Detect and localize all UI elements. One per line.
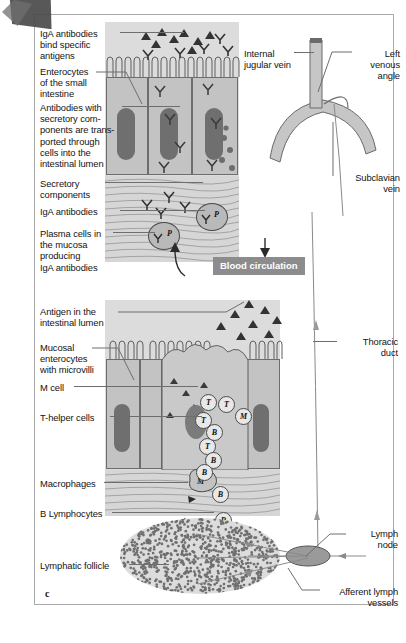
b-lymphocyte-cell: B xyxy=(206,424,223,441)
lower-microvilli-right xyxy=(248,340,282,360)
leader-antibodies-secretory xyxy=(122,106,180,107)
figure-canvas: P P IgA antibodies bind specific antigen… xyxy=(0,0,406,643)
leader-lymphatic-follicle xyxy=(129,564,169,565)
label-afferent-lymph-vessels: Afferent lymph vessels xyxy=(316,586,398,608)
label-m-cell: M cell xyxy=(40,382,122,393)
label-b-lymphocytes: B Lymphocytes xyxy=(40,508,126,519)
label-t-helper-cells: T-helper cells xyxy=(40,412,122,423)
leader-t-helper-cells xyxy=(110,416,202,417)
leader-iga-antibodies-bind xyxy=(120,32,184,33)
leader-mucosal-enterocytes xyxy=(92,346,136,386)
label-left-venous-angle: Left venous angle xyxy=(352,48,400,82)
t-helper-cell: T xyxy=(200,394,217,411)
label-plasma-cells-mucosa: Plasma cells in the mucosa producing IgA… xyxy=(40,228,124,273)
leader-secretory-components xyxy=(105,182,203,183)
label-thoracic-duct: Thoracic duct xyxy=(340,336,398,358)
label-lymphatic-follicle: Lymphatic follicle xyxy=(40,560,136,571)
t-helper-cell: T xyxy=(218,396,235,413)
leader-macrophages xyxy=(104,482,188,483)
label-lymph-node: Lymph node xyxy=(346,528,398,550)
m-cell-circle: M xyxy=(235,408,252,425)
panel-letter-c: c xyxy=(45,588,49,599)
svg-text:P: P xyxy=(214,210,219,219)
thoracic-duct-line xyxy=(300,210,340,555)
label-antibodies-secretory-components: Antibodies with secretory com- ponents a… xyxy=(40,102,124,169)
label-iga-antibodies-bind: IgA antibodies bind specific antigens xyxy=(40,28,118,62)
leader-thoracic-duct xyxy=(313,341,337,342)
label-iga-antibodies: IgA antibodies xyxy=(40,206,124,217)
leader-b-lymphocytes xyxy=(112,512,214,513)
label-antigen-intestinal-lumen: Antigen in the intestinal lumen xyxy=(40,306,122,328)
leader-internal-jugular-vein xyxy=(294,52,314,53)
leader-afferent-lymph-vessels xyxy=(286,566,322,594)
leader-subclavian-vein xyxy=(330,120,354,178)
upper-transported-antibodies xyxy=(150,80,240,175)
leader-m-cell xyxy=(74,386,198,387)
leader-left-venous-angle xyxy=(316,50,354,94)
leader-antigen-lumen xyxy=(118,300,246,318)
label-macrophages: Macrophages xyxy=(40,478,122,489)
leader-plasma-cells xyxy=(113,232,155,233)
leader-lymph-node xyxy=(302,532,348,560)
blood-circulation-box: Blood circulation xyxy=(213,257,305,275)
lower-enterocyte-cell xyxy=(140,359,162,469)
leader-iga-antibodies xyxy=(120,210,205,211)
lower-enterocyte-nucleus xyxy=(253,404,269,452)
